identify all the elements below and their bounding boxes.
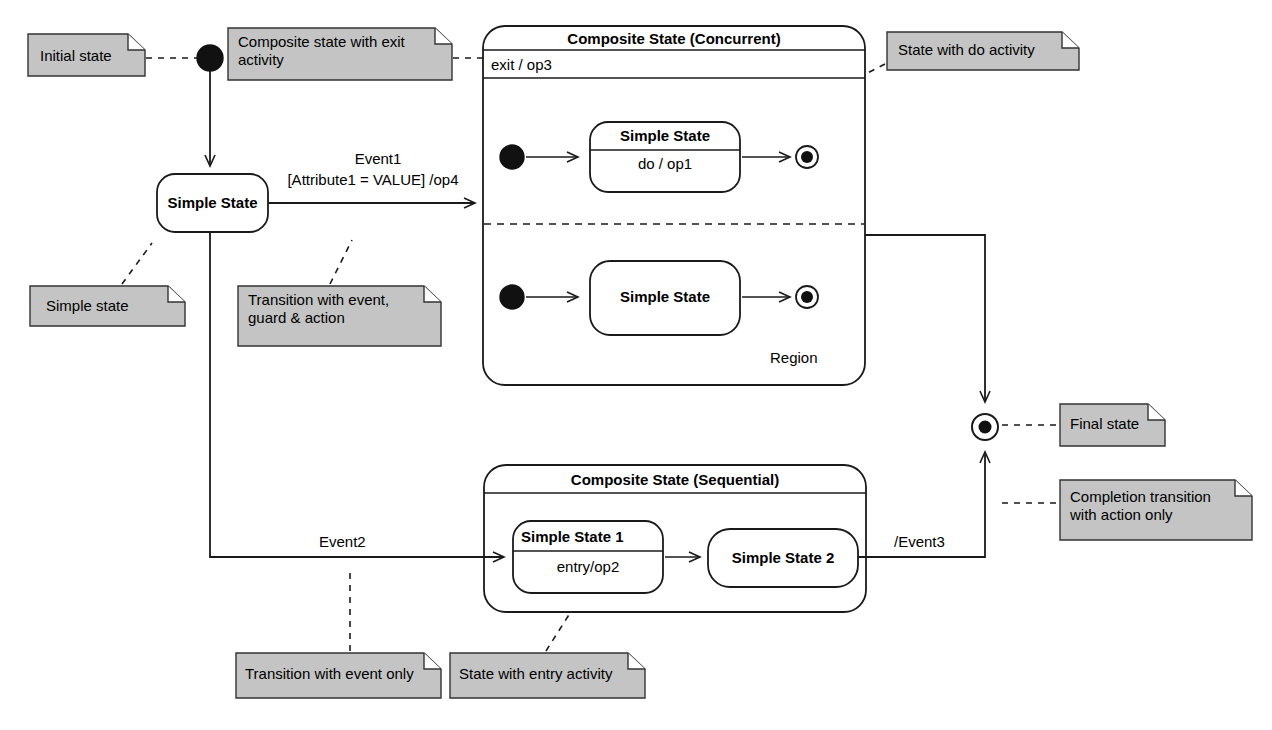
top-level-initial-transition (197, 45, 223, 166)
final-state-region-2-dot (801, 291, 813, 303)
composite-concurrent-title: Composite State (Concurrent) (483, 30, 865, 48)
region1-state-activity: do / op1 (590, 155, 740, 173)
transition-event3-label: /Event3 (894, 533, 945, 551)
final-state-region-1-ring (796, 146, 818, 168)
transition-event1-label-line2: [Attribute1 = VALUE] /op4 (266, 171, 480, 189)
leader-simple-state (122, 243, 152, 284)
note-state-entry-activity-label: State with entry activity (459, 665, 612, 683)
leader-state-entry-activity (546, 610, 572, 651)
note-transition-event-guard-action-label: Transition with event, guard & action (248, 291, 389, 326)
transition-event2-label: Event2 (319, 533, 366, 551)
final-state-ring (972, 414, 998, 440)
final-state-dot (979, 421, 992, 434)
note-completion-transition-label: Completion transition with action only (1070, 488, 1211, 523)
leader-state-with-do-activity (745, 64, 885, 136)
composite-state-concurrent-shape (483, 26, 865, 385)
sequential-state2-label: Simple State 2 (708, 549, 858, 567)
simple-state-left-label: Simple State (157, 194, 268, 212)
transition-event2 (210, 232, 504, 557)
composite-concurrent-exit-activity: exit / op3 (491, 56, 552, 74)
note-composite-exit-activity-label: Composite state with exit activity (238, 33, 405, 68)
note-state-with-do-activity-label: State with do activity (898, 41, 1035, 59)
final-state-region-1-dot (801, 151, 813, 163)
diagram-vector-layer (0, 0, 1272, 730)
note-initial-state-label: Initial state (40, 47, 112, 65)
transition-event1-label-line1: Event1 (276, 150, 480, 168)
leader-transition-event-guard-action (330, 240, 352, 284)
final-state-region-2-ring (796, 286, 818, 308)
initial-pseudostate-top (197, 45, 223, 71)
uml-state-diagram-canvas: Initial state Composite state with exit … (0, 0, 1272, 730)
note-final-state-label: Final state (1070, 415, 1139, 433)
initial-pseudostate-region-2 (500, 285, 524, 309)
final-state-top-level (972, 414, 998, 440)
note-region-label: Region (770, 349, 818, 367)
region2-state-label: Simple State (590, 288, 740, 306)
composite-sequential-title: Composite State (Sequential) (484, 471, 866, 489)
transition-completion-concurrent-to-final (865, 235, 985, 402)
sequential-state1-label: Simple State 1 (521, 528, 624, 546)
initial-pseudostate-region-1 (500, 145, 524, 169)
note-simple-state-label: Simple state (46, 297, 129, 315)
note-transition-event-only-label: Transition with event only (245, 665, 414, 683)
region1-state-label: Simple State (590, 127, 740, 145)
sequential-state1-activity: entry/op2 (513, 558, 663, 576)
